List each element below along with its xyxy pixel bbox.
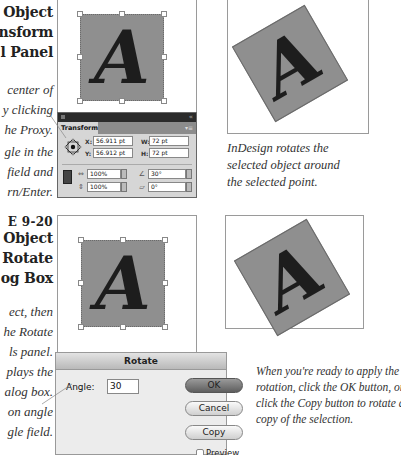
selection-handle[interactable] [161, 54, 167, 60]
collapse-icon[interactable]: « [189, 113, 193, 122]
selection-handle[interactable] [77, 98, 83, 104]
selection-handle[interactable] [162, 280, 168, 286]
selection-handle[interactable] [161, 98, 167, 104]
shear-angle-field[interactable]: 0° [148, 182, 186, 192]
reference-point-proxy-icon[interactable] [64, 138, 82, 156]
rotate-dialog: Rotate Angle: 30 OK Cancel Copy Preview [55, 352, 227, 455]
selection-handle[interactable] [162, 237, 168, 243]
x-label: X: [85, 138, 92, 145]
scale-y-stepper[interactable] [121, 182, 127, 192]
shear-angle-icon: ▱ [138, 183, 146, 191]
x-position-field[interactable]: 56.911 pt [93, 136, 133, 146]
dialog-title: Rotate [56, 353, 226, 370]
selected-object[interactable]: A [80, 14, 164, 101]
ok-button[interactable]: OK [185, 378, 243, 393]
selection-handle[interactable] [77, 11, 83, 17]
panel-tab-row: Transform ▾≡ [58, 122, 196, 134]
rotation-angle-stepper[interactable] [186, 169, 192, 179]
shear-angle-stepper[interactable] [186, 182, 192, 192]
selection-handle[interactable] [119, 98, 125, 104]
scale-x-icon: ⇔ [77, 170, 85, 178]
caption-apply: When you're ready to apply the rotation,… [256, 363, 401, 427]
preview-checkbox[interactable]: Preview [196, 448, 239, 455]
height-field[interactable]: 72 pt [149, 148, 189, 158]
transform-panel: « Transform ▾≡ X: 56.911 pt Y: 56.912 pt… [57, 112, 197, 198]
selected-object[interactable]: A [81, 240, 165, 327]
callout-rotate-tool: ect, then he Rotate ls panel. plays the … [0, 302, 53, 402]
h-label: H: [141, 150, 148, 157]
tab-transform[interactable]: Transform [58, 122, 98, 134]
panel-titlebar[interactable]: « [58, 113, 196, 122]
selection-handle[interactable] [161, 11, 167, 17]
angle-input[interactable]: 30 [107, 379, 139, 394]
canvas-frame-before-dialog: A [57, 215, 197, 355]
selection-handle[interactable] [78, 324, 84, 330]
selection-handle[interactable] [162, 324, 168, 330]
panel-divider [62, 164, 192, 165]
constrain-proportions-icon[interactable] [63, 170, 72, 184]
width-field[interactable]: 72 pt [149, 136, 189, 146]
checkbox-icon[interactable] [196, 449, 204, 455]
scale-y-icon: ⇕ [77, 183, 85, 191]
letter-glyph: A [235, 220, 349, 335]
canvas-frame-after-dialog: A [225, 215, 364, 329]
canvas-frame-before: A [57, 0, 197, 114]
close-icon[interactable] [61, 115, 65, 119]
y-label: Y: [85, 150, 91, 157]
letter-glyph: A [82, 241, 164, 326]
selection-handle[interactable] [120, 237, 126, 243]
figure-title: Object Rotate og Box [0, 228, 53, 288]
selection-handle[interactable] [119, 11, 125, 17]
figure-number: E 9-20 [0, 215, 53, 229]
copy-button[interactable]: Copy [185, 425, 243, 440]
rotation-angle-field[interactable]: 30° [148, 169, 186, 179]
preview-label: Preview [206, 448, 239, 455]
caption-rotates: InDesign rotates the selected object aro… [227, 140, 397, 191]
angle-label: Angle: [66, 382, 95, 392]
letter-glyph: A [81, 15, 163, 100]
selection-handle[interactable] [77, 54, 83, 60]
y-position-field[interactable]: 56.912 pt [93, 148, 133, 158]
rotated-object[interactable]: A [232, 5, 348, 122]
letter-glyph: A [233, 6, 347, 121]
rotated-object[interactable]: A [234, 219, 350, 336]
canvas-frame-after: A [227, 0, 369, 134]
selection-handle[interactable] [78, 237, 84, 243]
panel-menu-icon[interactable]: ▾≡ [185, 124, 193, 131]
scale-x-stepper[interactable] [121, 169, 127, 179]
callout-angle-dialog: on angle gle field. [0, 402, 53, 442]
scale-x-field[interactable]: 100% [87, 169, 121, 179]
callout-proxy: center of y clicking he Proxy. [0, 80, 53, 140]
selection-handle[interactable] [120, 324, 126, 330]
rotation-angle-icon: ∠ [138, 170, 146, 178]
figure-title: Object nsform l Panel [0, 2, 53, 62]
callout-angle-field: gle in the field and rn/Enter. [0, 142, 53, 202]
cancel-button[interactable]: Cancel [185, 401, 243, 416]
selection-handle[interactable] [78, 280, 84, 286]
scale-y-field[interactable]: 100% [87, 182, 121, 192]
